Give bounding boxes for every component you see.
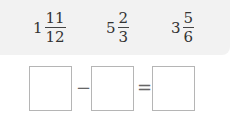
numerator: 2 [118,11,130,27]
whole-part: 5 [106,21,116,36]
fraction: 11 12 [45,11,66,45]
answer-box-subtrahend[interactable] [91,66,134,111]
answer-box-minuend[interactable] [29,66,72,111]
mixed-number-3[interactable]: 3 5 6 [171,8,194,48]
equals-sign: = [137,78,152,98]
numerator: 11 [45,11,66,27]
denominator: 12 [45,28,66,45]
whole-part: 1 [33,21,43,36]
minus-sign: − [76,78,91,98]
fraction: 5 6 [183,11,195,45]
denominator: 6 [183,28,195,45]
mixed-number-2[interactable]: 5 2 3 [106,8,129,48]
whole-part: 3 [171,21,181,36]
mixed-number-1[interactable]: 1 11 12 [33,8,66,48]
fraction: 2 3 [118,11,130,45]
number-card-panel: 1 11 12 5 2 3 3 5 6 [0,0,230,55]
numerator: 5 [183,11,195,27]
answer-box-result[interactable] [152,66,195,111]
denominator: 3 [118,28,130,45]
